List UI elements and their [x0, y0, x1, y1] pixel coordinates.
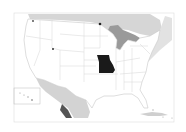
lake-dot — [99, 23, 102, 26]
lake-dot — [52, 48, 54, 50]
lake-dot — [32, 20, 34, 22]
us-locator-map — [0, 0, 186, 132]
